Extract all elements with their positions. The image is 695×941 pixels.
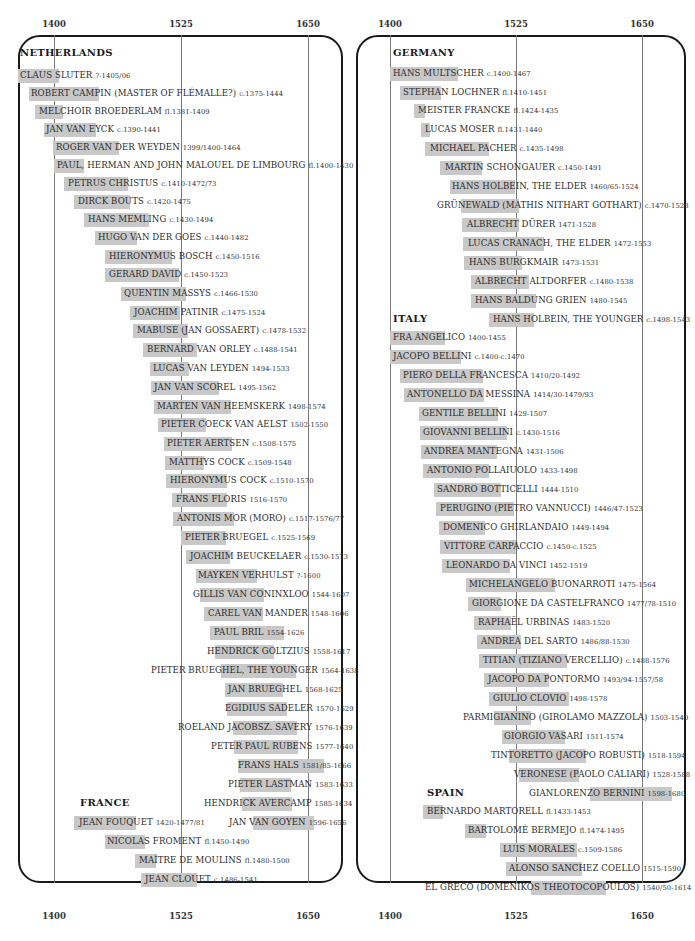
artist-name: SANDRO BOTTICELLI <box>437 484 538 494</box>
artist-label: GIANLORENZO BERNINI1598-1680 <box>529 788 685 798</box>
artist-label: MAYKEN VERHULST?-1600 <box>198 570 321 580</box>
artist-label: JAN VAN SCOREL1495-1562 <box>154 382 276 392</box>
artist-label: ANTONELLO DA MESSINA1414/30-1479/93 <box>407 389 593 399</box>
artist-label: JACOPO BELLINIc.1400-c.1470 <box>393 351 525 361</box>
artist-name: LUCAS MOSER <box>425 124 494 134</box>
artist-name: JAN VAN GOYEN <box>229 817 306 827</box>
artist-name: JAN VAN EYCK <box>46 124 114 134</box>
artist-label: HIERONYMUS COCKc.1510-1570 <box>170 475 314 485</box>
artist-name: PARMIGIANINO (GIROLAMO MAZZOLA) <box>463 712 648 722</box>
artist-dates: 1486/88-1530 <box>581 638 630 646</box>
artist-label: HENDRICK GOLTZIUS1558-1617 <box>207 646 350 656</box>
artist-name: ROGER VAN DER WEYDEN <box>56 142 180 152</box>
artist-dates: 1596-1656 <box>309 819 347 827</box>
artist-name: HUGO VAN DER GOES <box>98 232 202 242</box>
artist-dates: 1516-1570 <box>249 496 287 504</box>
country-heading-netherlands: NETHERLANDS <box>20 47 113 58</box>
artist-name: HANS MULTSCHER <box>393 68 484 78</box>
artist-name: ANTONIS MOR (MORO) <box>177 513 286 523</box>
artist-label: FRANS HALS1581/85-1666 <box>238 760 351 770</box>
artist-name: JOACHIM BEUCKELAER <box>190 551 301 561</box>
country-heading-spain: SPAIN <box>427 787 464 798</box>
artist-label: PETRUS CHRISTUSc.1410-1472/73 <box>68 178 217 188</box>
artist-label: TITIAN (TIZIANO VERCELLIO)c.1488-1576 <box>483 655 670 665</box>
artist-name: HENDRICK GOLTZIUS <box>207 646 310 656</box>
artist-name: VERONESE (PAOLO CALIARI) <box>514 769 649 779</box>
artist-name: MAYKEN VERHULST <box>198 570 294 580</box>
artist-name: DIRCK BOUTS <box>78 196 144 206</box>
artist-dates: c.1410-1472/73 <box>161 180 216 188</box>
artist-label: ANTONIO POLLAIUOLO1433-1498 <box>427 465 578 475</box>
artist-name: VITTORE CARPACCIO <box>444 541 544 551</box>
artist-name: HANS HOLBEIN, THE YOUNGER <box>493 314 643 324</box>
artist-dates: 1576-1639 <box>315 724 353 732</box>
artist-label: LUCAS CRANACH, THE ELDER1472-1553 <box>468 238 651 248</box>
artist-dates: c.1430-1494 <box>169 216 213 224</box>
artist-label: HANS BALDUNG GRIEN1480-1545 <box>475 295 627 305</box>
artist-name: MICHELANGELO BUONARROTI <box>469 579 615 589</box>
artist-name: ROBERT CAMPIN (MASTER OF FLÉMALLE?) <box>31 88 236 98</box>
artist-name: EGIDIUS SADELER <box>225 703 313 713</box>
artist-dates: fl.1381-1409 <box>165 108 210 116</box>
artist-name: TITIAN (TIZIANO VERCELLIO) <box>483 655 623 665</box>
artist-label: JEAN CLOUETc.1486-1541 <box>145 874 258 884</box>
artist-dates: 1433-1498 <box>540 467 578 475</box>
artist-name: ALBRECHT DÜRER <box>467 219 555 229</box>
artist-label: TINTORETTO (JACOPO ROBUSTI)1518-1594 <box>491 750 686 760</box>
artist-name: PIETER BRUEGHEL, THE YOUNGER <box>151 665 318 675</box>
artist-label: LEONARDO DA VINCI1452-1519 <box>446 560 587 570</box>
artist-label: RAPHAËL URBINAS1483-1520 <box>478 617 610 627</box>
artist-name: LEONARDO DA VINCI <box>446 560 547 570</box>
artist-dates: 1480-1545 <box>590 297 628 305</box>
artist-name: EL GRECO (DOMENIKOS THEOTOCOPOULOS) <box>425 882 639 892</box>
artist-dates: 1528-1588 <box>652 771 690 779</box>
artist-name: RAPHAËL URBINAS <box>478 617 569 627</box>
artist-label: JAN BRUEGHEL1568-1625 <box>228 684 343 694</box>
artist-name: ANDREA MANTEGNA <box>424 446 523 456</box>
artist-dates: c.1450-c.1525 <box>547 543 597 551</box>
artist-label: HANS MEMLINGc.1430-1494 <box>88 214 213 224</box>
artist-label: PETER PAUL RUBENS1577-1640 <box>211 741 353 751</box>
artist-dates: 1446/47-1523 <box>594 505 643 513</box>
artist-label: HIERONYMUS BOSCHc.1450-1516 <box>109 251 260 261</box>
artist-name: JACOPO BELLINI <box>393 351 472 361</box>
artist-dates: ?-1405/06 <box>95 72 130 80</box>
artist-dates: 1460/65-1524 <box>590 183 639 191</box>
artist-dates: c.1450-1516 <box>216 253 260 261</box>
artist-name: JEAN CLOUET <box>145 874 211 884</box>
artist-name: ANTONELLO DA MESSINA <box>407 389 530 399</box>
artist-label: JAN VAN EYCKc.1390-1441 <box>46 124 161 134</box>
artist-dates: 1511-1574 <box>586 733 624 741</box>
artist-label: PIETER BRUEGELc.1525-1569 <box>185 532 315 542</box>
artist-dates: 1558-1617 <box>313 648 351 656</box>
artist-dates: c.1450-1491 <box>558 164 602 172</box>
artist-dates: c.1509-1548 <box>248 459 292 467</box>
artist-label: JOACHIM BEUCKELAERc.1530-1573 <box>190 551 348 561</box>
artist-name: HIERONYMUS BOSCH <box>109 251 213 261</box>
artist-label: HANS HOLBEIN, THE YOUNGERc.1498-1543 <box>493 314 690 324</box>
artist-label: MICHELANGELO BUONARROTI1475-1564 <box>469 579 656 589</box>
artist-label: PIETER LASTMAN1583-1633 <box>228 779 353 789</box>
artist-dates: 1473-1531 <box>561 259 599 267</box>
artist-name: PIETER BRUEGEL <box>185 532 268 542</box>
artist-dates: c.1510-1570 <box>270 477 314 485</box>
artist-dates: c.1486-1541 <box>214 876 258 884</box>
artist-name: FRA ANGELICO <box>393 332 465 342</box>
artist-label: ALBRECHT ALTDORFERc.1480-1538 <box>475 276 633 286</box>
artist-label: FRA ANGELICO1400-1455 <box>393 332 506 342</box>
artist-dates: c.1517-1576/77 <box>289 515 344 523</box>
artist-label: GRÜNEWALD (MATHIS NITHART GOTHART)c.1470… <box>437 200 689 210</box>
axis-bottom-right-1400: 1400 <box>378 911 402 921</box>
artist-label: EL GRECO (DOMENIKOS THEOTOCOPOULOS)1540/… <box>425 882 691 892</box>
artist-name: MELCHOIR BROEDERLAM <box>39 106 162 116</box>
artist-name: LUIS MORALES <box>503 844 575 854</box>
artist-name: HENDRICK AVERCAMP <box>204 798 312 808</box>
artist-label: STEPHAN LOCHNERfl.1410-1451 <box>403 87 547 97</box>
artist-dates: 1449-1494 <box>571 524 609 532</box>
gridline-right-1400 <box>390 35 391 883</box>
artist-label: NICOLAS FROMENTfl.1450-1490 <box>107 836 249 846</box>
axis-bottom-right-1650: 1650 <box>630 911 654 921</box>
artist-dates: 1420-1477/81 <box>156 819 205 827</box>
artist-dates: 1472-1553 <box>614 240 652 248</box>
artist-dates: 1452-1519 <box>550 562 588 570</box>
